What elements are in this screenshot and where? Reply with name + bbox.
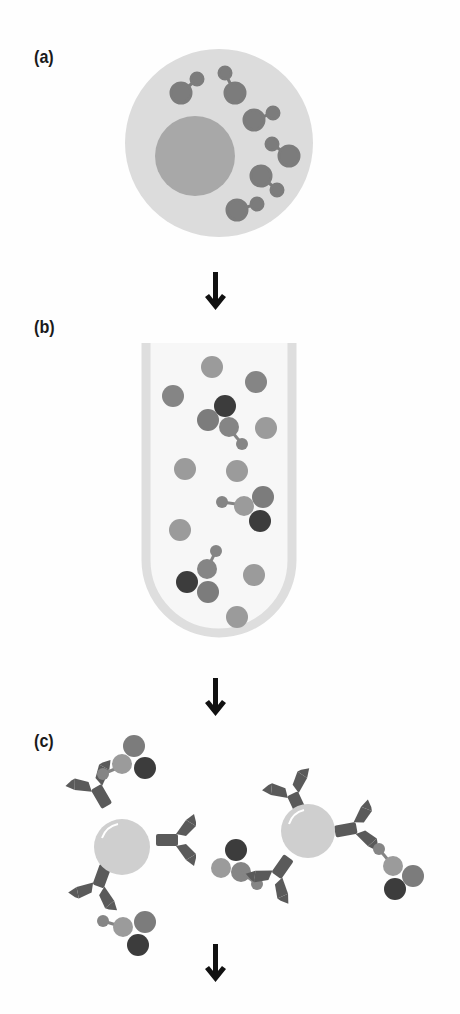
nucleus bbox=[155, 116, 235, 196]
bead-capture-illustration-left bbox=[64, 735, 196, 956]
cell-illustration bbox=[125, 49, 313, 237]
arrow-icon bbox=[205, 272, 226, 310]
arrow-icon bbox=[205, 944, 226, 982]
bead bbox=[281, 804, 335, 858]
bead-capture-illustration-right bbox=[245, 766, 424, 905]
free-complex bbox=[211, 839, 263, 890]
test-tube-illustration bbox=[146, 343, 292, 633]
diagram-canvas bbox=[0, 0, 460, 1014]
arrow-icon bbox=[205, 678, 226, 716]
bead bbox=[94, 819, 150, 875]
